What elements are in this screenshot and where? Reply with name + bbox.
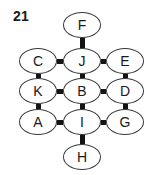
node-label-j: J <box>79 54 86 68</box>
node-label-g: G <box>120 115 131 129</box>
node-label-f: F <box>78 18 87 32</box>
edge-f-j <box>80 38 85 48</box>
diagram-canvas: 21 FCJEKBDAIGH <box>0 0 157 175</box>
node-d[interactable]: D <box>106 78 144 104</box>
node-j[interactable]: J <box>63 48 101 74</box>
node-label-i: I <box>80 115 84 129</box>
node-f[interactable]: F <box>63 12 101 38</box>
node-label-k: K <box>33 84 42 98</box>
node-e[interactable]: E <box>106 48 144 74</box>
node-h[interactable]: H <box>63 144 101 170</box>
edge-i-h <box>80 135 85 144</box>
node-i[interactable]: I <box>63 109 101 135</box>
node-label-a: A <box>33 115 42 129</box>
node-b[interactable]: B <box>63 78 101 104</box>
node-c[interactable]: C <box>19 48 57 74</box>
node-label-h: H <box>77 150 87 164</box>
node-k[interactable]: K <box>19 78 57 104</box>
node-label-b: B <box>77 84 86 98</box>
node-a[interactable]: A <box>19 109 57 135</box>
node-g[interactable]: G <box>106 109 144 135</box>
node-label-e: E <box>120 54 129 68</box>
figure-number-label: 21 <box>13 9 29 23</box>
node-label-c: C <box>33 54 43 68</box>
node-label-d: D <box>120 84 130 98</box>
